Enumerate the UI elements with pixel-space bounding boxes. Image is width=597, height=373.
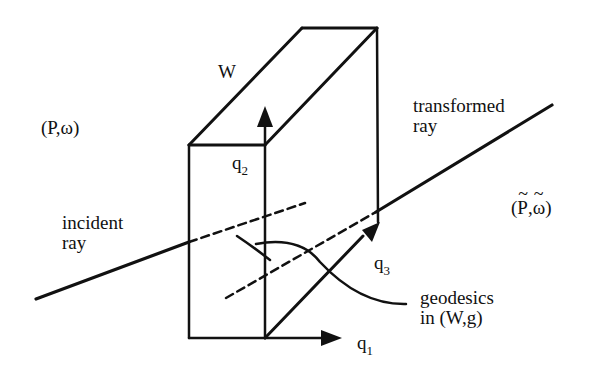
diagram-canvas: W (P,ω) q2 q3 q1 incident ray transforme… [0, 0, 597, 373]
label-source-space: (P,ω) [41, 118, 79, 138]
q1-arrowhead [321, 330, 342, 346]
label-q3: q3 [374, 253, 390, 275]
q3-arrowhead [362, 222, 380, 242]
label-target-space: (~P,~ω) [511, 198, 552, 218]
q2-arrowhead [257, 106, 273, 127]
tilde-omega: ~ [534, 184, 544, 204]
transformed-ray-dashed [226, 212, 376, 298]
label-incident-ray: incident ray [62, 213, 123, 253]
tilde-p: ~ [518, 184, 528, 204]
diagram-drawing [0, 0, 597, 373]
arrowheads [257, 106, 380, 346]
label-w: W [218, 62, 236, 82]
label-q2: q2 [232, 153, 248, 175]
incident-ray-dashed [189, 203, 305, 242]
label-geodesics: geodesics in (W,g) [420, 288, 494, 328]
label-transformed-ray: transformed ray [413, 96, 505, 136]
label-q1: q1 [357, 333, 373, 355]
